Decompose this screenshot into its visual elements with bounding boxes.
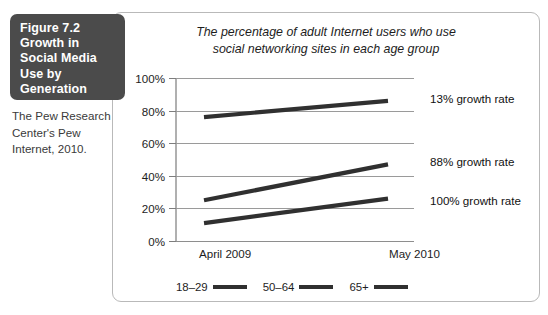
chart-legend: 18–2950–6465+ [176,281,456,293]
y-axis-tick [169,241,176,242]
y-axis-label: 40% [142,169,165,182]
y-axis-label: 0% [148,235,165,248]
legend-item-1[interactable]: 50–64 [263,281,334,293]
figure-container: Figure 7.2 Growth in Social Media Use by… [0,0,548,315]
figure-title-line: Use by [20,67,116,82]
series-line-1 [204,164,388,200]
y-axis-label: 100% [135,72,165,85]
legend-label: 18–29 [176,281,208,293]
chart-title: The percentage of adult Internet users w… [112,24,540,57]
y-axis-tick [169,208,176,209]
figure-title-line: Figure 7.2 [20,21,116,36]
legend-label: 50–64 [263,281,295,293]
y-axis-label: 60% [142,137,165,150]
annotation-65-plus: 100% growth rate [430,194,521,207]
series-lines [176,78,414,241]
plot-area: 100%80%60%40%20%0% [176,78,414,241]
y-axis-tick [169,78,176,79]
y-axis-label: 80% [142,104,165,117]
chart-title-line-1: The percentage of adult Internet users w… [112,24,540,41]
legend-label: 65+ [349,281,368,293]
legend-swatch [213,285,247,289]
figure-title-line: Growth in [20,36,116,51]
x-axis-label-april: April 2009 [199,247,251,260]
figure-source-caption: The Pew Research Center's Pew Internet, … [12,108,122,158]
legend-swatch [299,285,333,289]
series-line-2 [204,199,388,223]
figure-title-box: Figure 7.2 Growth in Social Media Use by… [10,14,125,100]
figure-title-line: Generation [20,82,116,97]
y-axis-tick [169,176,176,177]
annotation-18-29: 13% growth rate [430,92,514,105]
legend-item-2[interactable]: 65+ [349,281,407,293]
legend-item-0[interactable]: 18–29 [176,281,247,293]
x-axis-label-may: May 2010 [389,247,440,260]
gridline [176,241,414,242]
y-axis-tick [169,111,176,112]
y-axis-tick [169,143,176,144]
chart-title-line-2: social networking sites in each age grou… [112,41,540,58]
figure-title-line: Social Media [20,51,116,66]
annotation-50-64: 88% growth rate [430,155,514,168]
legend-swatch [374,285,408,289]
series-line-0 [204,101,388,117]
y-axis-label: 20% [142,202,165,215]
